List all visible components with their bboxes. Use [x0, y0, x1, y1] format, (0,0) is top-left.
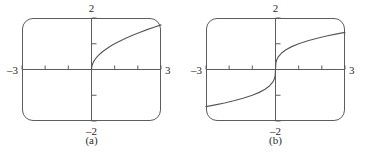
figure-two-graph-panels: 2 –2 –3 3 (a) 2 –2 –3 3 (b) — [0, 0, 367, 161]
calculator-screen-a: 2 –2 –3 3 — [22, 18, 161, 121]
x-min-label-a: –3 — [7, 64, 18, 75]
curve-sqrt(x) — [92, 25, 162, 70]
graph-panel-b: 2 –2 –3 3 (b) — [184, 0, 367, 161]
calculator-screen-b: 2 –2 –3 3 — [206, 18, 345, 121]
x-min-label-b: –3 — [191, 64, 202, 75]
plot-area-b — [206, 18, 345, 121]
plot-area-a — [22, 18, 161, 121]
panel-caption-a: (a) — [0, 134, 183, 146]
y-max-label-a: 2 — [89, 3, 95, 14]
x-max-label-a: 3 — [165, 64, 171, 75]
graph-panel-a: 2 –2 –3 3 (a) — [0, 0, 183, 161]
x-max-label-b: 3 — [349, 64, 355, 75]
y-max-label-b: 2 — [273, 3, 279, 14]
panel-caption-b: (b) — [184, 134, 367, 146]
